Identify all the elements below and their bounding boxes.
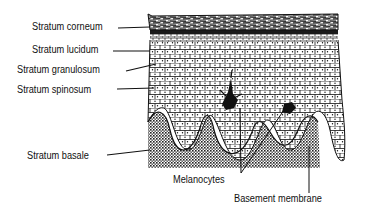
label-basement-membrane: Basement membrane [234, 193, 322, 204]
epidermis-diagram: Stratum corneum Stratum lucidum Stratum … [0, 0, 374, 217]
granulosum-band [150, 34, 338, 42]
label-stratum-lucidum: Stratum lucidum [32, 44, 98, 55]
corneum-band [148, 14, 338, 30]
label-stratum-corneum: Stratum corneum [32, 21, 103, 32]
lucidum-band [150, 30, 338, 34]
label-stratum-granulosum: Stratum granulosum [17, 64, 100, 75]
label-stratum-basale: Stratum basale [27, 150, 89, 161]
label-stratum-spinosum: Stratum spinosum [17, 84, 91, 95]
label-melanocytes: Melanocytes [173, 174, 225, 185]
